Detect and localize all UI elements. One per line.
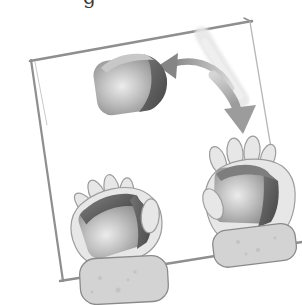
left-cube-side-face (124, 193, 156, 249)
left-sleeve-texture (91, 270, 137, 293)
left-hand (59, 164, 172, 273)
cube-in-left-hand-icon (74, 188, 157, 263)
arrow-left-head (158, 53, 178, 79)
right-hand-thumb (199, 186, 228, 222)
arrow-down-head (224, 105, 256, 134)
right-hand (199, 135, 295, 241)
board-frame (30, 18, 302, 281)
airborne-cube-front-face (92, 54, 163, 117)
left-hand-thumb (140, 198, 160, 233)
board-right-edge (250, 22, 286, 238)
airborne-cube-icon (92, 54, 168, 118)
airborne-cube-side-face (139, 54, 167, 112)
arrow-left-tail (172, 62, 231, 88)
left-hand-palm (63, 179, 170, 272)
motion-swoosh (202, 34, 242, 100)
right-cube-top-face (216, 165, 277, 181)
board-left-edge-echo (35, 62, 47, 125)
right-cube-front-face (213, 167, 271, 224)
right-sleeve-texture (236, 236, 277, 255)
right-hand-fingers (206, 135, 279, 175)
left-hand-fingers (67, 169, 142, 225)
left-sleeve (79, 255, 169, 305)
left-cube-top-face (77, 188, 144, 225)
juggling-illustration (0, 0, 302, 305)
left-cube-front-face (75, 193, 150, 262)
board-corner-hook (244, 18, 252, 22)
right-hand-palm (205, 159, 295, 241)
cube-in-right-hand-icon (213, 165, 279, 227)
airborne-cube-top-face (101, 54, 154, 73)
right-palm-crease (236, 229, 266, 233)
illustration-canvas: g (0, 0, 302, 305)
curved-arrow-down-icon (213, 75, 256, 134)
board-top-edge (30, 21, 252, 61)
board-bottom-edge (60, 242, 302, 281)
caption-fragment: g (83, 0, 96, 9)
curved-arrow-left-icon (158, 53, 231, 88)
board-left-edge (31, 60, 63, 281)
right-cube-side-face (258, 169, 279, 227)
arrow-down-tail (213, 75, 237, 110)
right-sleeve (211, 222, 298, 269)
